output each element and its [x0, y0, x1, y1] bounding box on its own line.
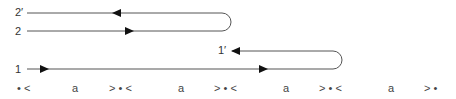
strand-label-2prime: 2′	[15, 7, 23, 18]
sequence-token: a	[72, 83, 78, 94]
sequence-token: a	[178, 83, 184, 94]
hairpin-loop-1	[333, 51, 342, 69]
arrow-right-icon	[40, 65, 49, 73]
sequence-token: > • <	[319, 83, 342, 94]
strand-label-2: 2	[15, 26, 21, 37]
arrow-right-icon	[259, 65, 268, 73]
sequence-token: > • <	[214, 83, 237, 94]
arrow-left-icon	[231, 47, 240, 55]
strand-label-1prime: 1′	[218, 45, 226, 56]
sequence-token: a	[388, 83, 394, 94]
sequence-token: • <	[17, 83, 30, 94]
sequence-token: > • <	[109, 83, 132, 94]
sequence-token: a	[283, 83, 289, 94]
hairpin-loop-2	[222, 13, 231, 31]
arrow-right-icon	[125, 27, 134, 35]
arrow-left-icon	[112, 9, 121, 17]
sequence-token: > •	[424, 83, 437, 94]
strand-label-1: 1	[15, 64, 21, 75]
